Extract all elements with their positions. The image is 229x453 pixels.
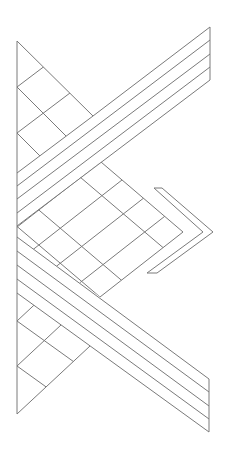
chevron-arrow-icon: [147, 188, 213, 273]
upper-band: [17, 27, 210, 226]
diagram-canvas: [0, 0, 229, 453]
lower-band: [17, 237, 209, 432]
center-diamond: [0, 84, 229, 417]
